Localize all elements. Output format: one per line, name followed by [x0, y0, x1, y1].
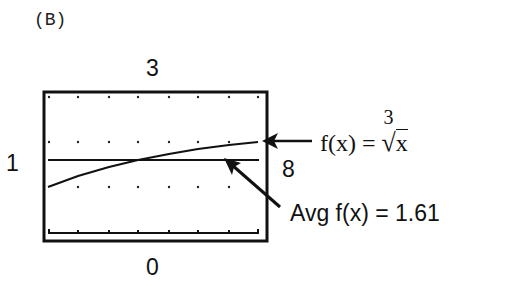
root-symbol: √3	[382, 128, 396, 157]
dot-grid	[48, 96, 259, 188]
function-arrow	[262, 133, 312, 149]
x-axis	[48, 229, 259, 233]
root-index: 3	[384, 106, 394, 129]
function-prefix: f(x) =	[320, 130, 376, 156]
function-curve	[48, 142, 258, 187]
radicand: x	[396, 129, 408, 156]
function-label: f(x) = √3x	[320, 128, 408, 158]
average-arrow	[224, 158, 280, 207]
graph-window	[0, 0, 508, 290]
average-label: Avg f(x) = 1.61	[290, 200, 440, 227]
